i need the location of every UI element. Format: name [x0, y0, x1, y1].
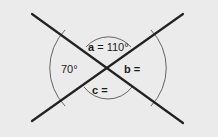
angle-a-equals: = — [97, 41, 103, 53]
angle-a-variable: a — [88, 41, 94, 53]
intersecting-lines-figure — [0, 0, 218, 137]
angle-left-label: 70° — [61, 64, 78, 75]
outer-arc-right — [151, 30, 166, 106]
angle-c-label: c = — [92, 85, 108, 96]
angle-diagram: a = 110° 70° b = c = — [0, 0, 218, 137]
angle-a-label: a = 110° — [88, 42, 129, 53]
angle-a-value: 110° — [107, 41, 129, 53]
angle-b-label: b = — [124, 64, 140, 75]
